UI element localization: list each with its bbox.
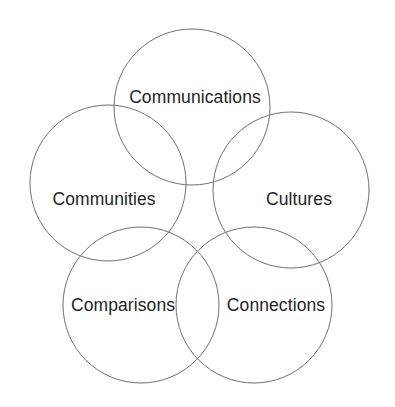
label-comparisons: Comparisons xyxy=(71,297,175,315)
label-communications: Communications xyxy=(129,89,261,107)
five-cs-diagram: Communications Communities Cultures Comp… xyxy=(0,0,395,407)
label-connections: Connections xyxy=(227,297,325,315)
label-cultures: Cultures xyxy=(266,191,332,209)
circle-communities xyxy=(30,105,186,261)
label-communities: Communities xyxy=(52,191,155,209)
